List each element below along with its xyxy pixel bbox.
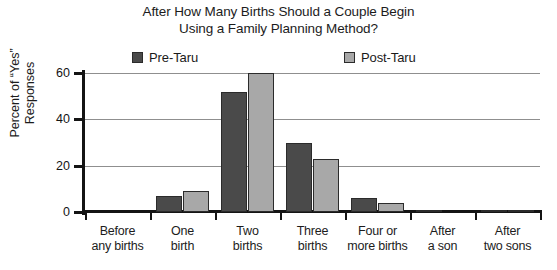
- x-axis-category-label: Beforeany births: [85, 224, 150, 254]
- x-axis-category-label: Aftertwo sons: [475, 224, 540, 254]
- chart-legend: Pre-Taru Post-Taru: [0, 50, 557, 68]
- bar: [286, 143, 312, 213]
- chart-title: After How Many Births Should a Couple Be…: [0, 3, 557, 37]
- x-axis-category-label: Threebirths: [280, 224, 345, 254]
- x-axis-category-label-line: any births: [85, 239, 150, 254]
- bar: [313, 159, 339, 212]
- y-axis-title-line-1: Percent of “Yes”: [8, 18, 23, 168]
- y-axis-title-line-2: Responses: [23, 18, 38, 168]
- legend-item-post-taru: Post-Taru: [344, 50, 416, 65]
- x-tick-mark: [150, 212, 152, 220]
- legend-label-post-taru: Post-Taru: [361, 50, 416, 65]
- bar: [248, 73, 274, 212]
- x-axis-labels: Beforeany birthsOnebirthTwobirthsThreebi…: [85, 224, 540, 264]
- legend-swatch-post-taru: [344, 52, 355, 63]
- bar: [351, 198, 377, 212]
- x-axis-category-label-line: Two: [215, 224, 280, 239]
- x-tick-mark: [345, 212, 347, 220]
- bar: [156, 196, 182, 212]
- x-axis-category-label-line: One: [150, 224, 215, 239]
- legend-item-pre-taru: Pre-Taru: [132, 50, 198, 65]
- chart-title-line-1: After How Many Births Should a Couple Be…: [0, 3, 557, 20]
- x-tick-mark: [475, 212, 477, 220]
- x-axis-category-label-line: birth: [150, 239, 215, 254]
- x-tick-mark: [540, 212, 542, 220]
- y-tick-label: 60: [44, 67, 70, 79]
- x-axis-category-label: Aftera son: [410, 224, 475, 254]
- bar: [416, 210, 442, 212]
- y-tick-label: 0: [44, 206, 70, 218]
- x-axis-category-label-line: Three: [280, 224, 345, 239]
- x-tick-mark: [85, 212, 87, 220]
- y-tick-label: 20: [44, 160, 70, 172]
- bar: [481, 210, 507, 212]
- x-axis-category-label-line: more births: [345, 239, 410, 254]
- x-axis-category-label-line: After: [410, 224, 475, 239]
- bar: [183, 191, 209, 212]
- bar: [508, 210, 534, 212]
- x-axis-category-label-line: Before: [85, 224, 150, 239]
- x-axis-category-label-line: a son: [410, 239, 475, 254]
- x-axis-category-label-line: Four or: [345, 224, 410, 239]
- x-axis-category-label: Twobirths: [215, 224, 280, 254]
- legend-label-pre-taru: Pre-Taru: [149, 50, 198, 65]
- x-tick-mark: [410, 212, 412, 220]
- y-tick-label: 40: [44, 113, 70, 125]
- x-axis-category-label: Onebirth: [150, 224, 215, 254]
- x-tick-mark: [215, 212, 217, 220]
- legend-swatch-pre-taru: [132, 52, 143, 63]
- x-axis-category-label-line: two sons: [475, 239, 540, 254]
- bar: [378, 203, 404, 212]
- bar: [221, 92, 247, 212]
- x-tick-mark: [280, 212, 282, 220]
- y-axis-title: Percent of “Yes” Responses: [8, 18, 38, 168]
- chart-title-line-2: Using a Family Planning Method?: [0, 20, 557, 37]
- x-axis-category-label: Four ormore births: [345, 224, 410, 254]
- x-axis-category-label-line: births: [280, 239, 345, 254]
- x-axis-category-label-line: births: [215, 239, 280, 254]
- x-axis-category-label-line: After: [475, 224, 540, 239]
- bar-chart-figure: After How Many Births Should a Couple Be…: [0, 0, 557, 270]
- bars-layer: [85, 73, 540, 212]
